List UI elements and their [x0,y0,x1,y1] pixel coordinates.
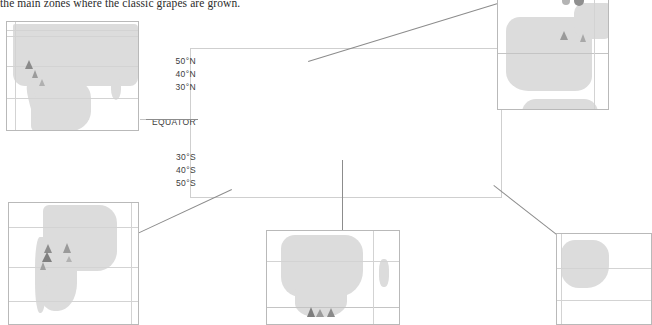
inset-na-latline-1 [7,30,138,31]
inset-af-lonline-1 [373,231,374,324]
inset-af-latline-1 [267,261,399,262]
marker-triangle-stellenbosch[interactable] [307,307,315,317]
marker-triangle-walker-bay[interactable] [327,308,335,317]
inset-au-lonline-1 [561,234,562,324]
inset-au-mainland [561,240,609,288]
inset-na-latline-4 [7,98,138,99]
inset-iberia-north-africa [522,99,598,110]
inset-north-america[interactable] [6,21,139,131]
marker-triangle-central-coast[interactable] [32,70,38,78]
marker-circle-bordeaux[interactable] [562,0,570,5]
lat-label-30n: 30°N [175,82,196,92]
world-map-frame [190,48,502,198]
inset-sa-lonline-1 [131,203,132,324]
marker-triangle-napa[interactable] [25,60,33,69]
marker-triangle-paarl[interactable] [316,309,324,317]
inset-southern-africa[interactable] [266,230,400,325]
marker-triangle-san-juan[interactable] [66,256,72,262]
inset-iberia-latline-1 [498,53,608,54]
inset-au-latline-2 [557,300,651,301]
marker-triangle-maipo[interactable] [42,252,52,262]
connector-southern-africa [342,160,343,230]
lat-label-50n: 50°N [175,56,196,66]
lat-label-30s: 30°S [176,152,196,162]
inset-iberia-lonline-1 [594,0,595,109]
lat-label-40n: 40°N [175,69,196,79]
inset-iberia[interactable] [497,0,609,110]
connector-north-america [146,119,198,120]
lat-label-40s: 40°S [176,165,196,175]
marker-triangle-south-coast[interactable] [39,79,45,86]
connector-australia [493,185,557,235]
inset-na-florida [111,78,121,100]
marker-triangle-ribera[interactable] [580,34,586,42]
marker-triangle-rioja[interactable] [560,31,568,40]
lat-label-50s: 50°S [176,178,196,188]
inset-na-mexico [31,80,91,131]
marker-triangle-mendoza[interactable] [63,243,71,253]
inset-sa-latline-3 [9,301,138,302]
page-caption: the main zones where the classic grapes … [0,0,420,9]
marker-triangle-colchagua[interactable] [40,262,46,270]
inset-australia[interactable] [556,233,652,325]
inset-sa-latline-1 [9,227,138,228]
inset-na-latline-2 [7,36,138,37]
inset-au-latline-1 [557,268,651,269]
inset-na-lonline-1 [15,22,16,130]
latitude-label-column: 50°N 40°N 30°N EQUATOR 30°S 40°S 50°S [140,46,196,196]
inset-south-america[interactable] [8,202,139,325]
inset-sa-latline-2 [9,267,138,268]
inset-af-madagascar [379,259,389,287]
